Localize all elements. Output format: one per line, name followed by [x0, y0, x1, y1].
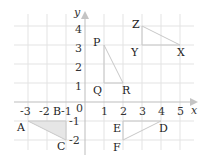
x-tick: 5: [177, 105, 184, 118]
vertex-label-f: F: [113, 141, 121, 154]
triangle-edf: E D F: [113, 121, 168, 154]
vertex-label-d: D: [159, 122, 168, 135]
vertex-label-q: Q: [93, 84, 102, 97]
y-tick: 3: [75, 42, 82, 55]
y-tick: -1: [69, 115, 80, 128]
y-tick: -2: [69, 134, 80, 147]
x-tick: 2: [120, 105, 127, 118]
vertex-label-z: Z: [132, 18, 140, 31]
y-tick-labels: 4 3 2 1 -1 -2: [69, 23, 82, 147]
x-tick: 4: [158, 105, 165, 118]
vertex-label-b: B: [53, 105, 61, 118]
vertex-label-p: P: [93, 36, 101, 49]
x-tick: 1: [101, 105, 108, 118]
vertex-label-e: E: [113, 122, 121, 135]
vertex-label-x: X: [177, 46, 185, 59]
vertex-label-y: Y: [130, 46, 139, 59]
x-tick-labels: -3 -2 -1 1 2 3 4 5: [20, 105, 184, 118]
x-tick: -2: [39, 105, 50, 118]
triangle-zyx: Z Y X: [130, 18, 185, 59]
y-axis-arrow-icon: [81, 11, 89, 19]
vertex-label-r: R: [122, 84, 131, 97]
y-axis-label: y: [73, 6, 81, 19]
vertex-label-c: C: [57, 140, 65, 153]
coordinate-plane: x y -3 -2 -1 1 2 3 4 5 0 4 3 2 1 -1 -2 A…: [0, 0, 208, 159]
y-tick: 4: [75, 23, 82, 36]
origin-label: 0: [76, 102, 83, 115]
x-tick: -3: [20, 105, 31, 118]
vertex-label-a: A: [16, 121, 26, 134]
y-tick: 2: [75, 61, 82, 74]
x-axis-label: x: [191, 104, 198, 117]
x-tick: 3: [139, 105, 146, 118]
y-tick: 1: [75, 80, 82, 93]
